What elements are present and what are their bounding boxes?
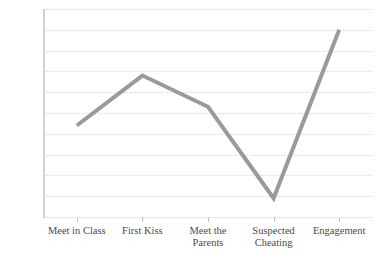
chart-title <box>0 0 378 1</box>
plot-area: 00.51.01.52.02.53.03.54.04.55.0 Meet in … <box>44 9 372 217</box>
x-axis-tick <box>208 217 209 222</box>
x-axis-tick <box>339 217 340 222</box>
x-axis-tick <box>142 217 143 222</box>
series-line <box>44 9 372 217</box>
x-axis-tick-label: Meet in Class <box>44 225 110 237</box>
x-axis-tick-label: First Kiss <box>110 225 176 237</box>
x-axis-tick-label: Meet the Parents <box>175 225 241 249</box>
x-axis-tick-label: Engagement <box>306 225 372 237</box>
x-axis-tick <box>274 217 275 222</box>
x-axis-tick <box>77 217 78 222</box>
line-chart: 00.51.01.52.02.53.03.54.04.55.0 Meet in … <box>0 0 378 254</box>
x-axis-tick-label: Suspected Cheating <box>241 225 307 249</box>
